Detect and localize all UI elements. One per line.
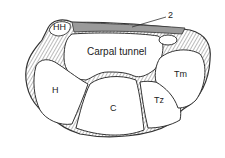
label-trapezoid: Tz [154,96,164,105]
carpal-tunnel-diagram [0,0,225,158]
label-trapezium: Tm [174,70,187,79]
label-capitate: C [110,104,117,113]
label-hh: HH [53,23,66,32]
label-ligament-2: 2 [168,11,173,20]
label-hamate: H [52,86,59,95]
fcr-tunnel [159,35,177,45]
label-carpal-tunnel: Carpal tunnel [87,47,146,57]
